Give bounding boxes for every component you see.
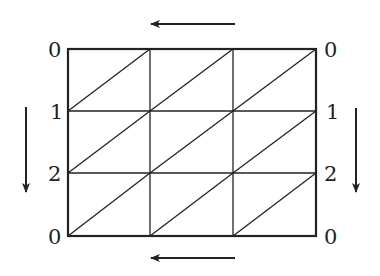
right-label-1: 1 [326,100,339,124]
right-label-3: 0 [324,225,337,249]
left-labels: 0 1 2 0 [48,38,63,249]
diagonal-line [68,173,150,236]
right-label-2: 2 [324,162,337,186]
diagonals [68,49,316,236]
left-label-1: 1 [50,100,63,124]
diagonal-line [233,111,316,173]
diagonal-line [150,49,233,111]
right-label-0: 0 [324,38,337,62]
diagonal-line [233,49,316,111]
diagonal-line [68,111,150,173]
diagonal-line [150,111,233,173]
left-label-3: 0 [48,225,61,249]
triangulated-grid-diagram: 0 1 2 0 0 1 2 0 [0,0,380,276]
left-label-2: 2 [48,162,61,186]
diagonal-line [150,173,233,236]
left-label-0: 0 [48,38,61,62]
right-labels: 0 1 2 0 [324,38,339,249]
diagonal-line [233,173,316,236]
diagonal-line [68,49,150,111]
